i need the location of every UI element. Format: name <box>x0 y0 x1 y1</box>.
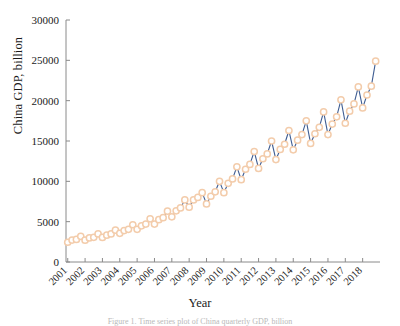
svg-text:2015: 2015 <box>289 265 312 288</box>
svg-text:2007: 2007 <box>151 265 174 288</box>
svg-text:2018: 2018 <box>341 265 364 288</box>
svg-text:2003: 2003 <box>81 265 104 288</box>
svg-text:20000: 20000 <box>32 95 60 107</box>
data-point-markers <box>65 58 379 245</box>
svg-text:2001: 2001 <box>47 265 70 288</box>
svg-text:2009: 2009 <box>185 265 208 288</box>
svg-text:2002: 2002 <box>64 265 87 288</box>
x-axis-label: Year <box>0 296 400 311</box>
chart-svg: 050001000015000200002500030000 200120022… <box>0 0 400 326</box>
svg-text:2008: 2008 <box>168 265 191 288</box>
svg-text:10000: 10000 <box>32 175 60 187</box>
svg-text:2013: 2013 <box>255 265 278 288</box>
svg-text:2017: 2017 <box>324 265 347 288</box>
y-axis-ticks: 050001000015000200002500030000 <box>32 14 71 268</box>
chart-figure: 050001000015000200002500030000 200120022… <box>0 0 400 326</box>
svg-text:2012: 2012 <box>237 265 260 288</box>
y-axis-label: China GDP, billion <box>11 0 26 186</box>
svg-text:30000: 30000 <box>32 14 60 26</box>
svg-text:2014: 2014 <box>272 264 295 287</box>
svg-text:2006: 2006 <box>133 265 156 288</box>
svg-text:25000: 25000 <box>32 54 60 66</box>
chart-axes <box>66 20 380 262</box>
svg-text:2010: 2010 <box>203 265 226 288</box>
svg-text:2011: 2011 <box>220 265 242 287</box>
svg-text:2005: 2005 <box>116 265 139 288</box>
figure-caption: Figure 1. Time series plot of China quar… <box>0 317 400 326</box>
svg-text:2016: 2016 <box>307 265 330 288</box>
data-line-series <box>68 61 376 242</box>
svg-text:2004: 2004 <box>99 264 122 287</box>
svg-text:5000: 5000 <box>37 216 60 228</box>
svg-text:15000: 15000 <box>32 135 60 147</box>
